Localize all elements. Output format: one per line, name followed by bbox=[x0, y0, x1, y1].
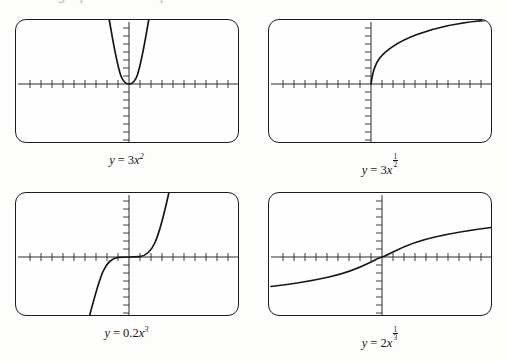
exponent-denominator: 2 bbox=[393, 161, 399, 168]
figure-grid: y=3x2 bbox=[0, 9, 507, 362]
caption-coefficient: 0.2 bbox=[123, 326, 139, 340]
graph-panel-square-root bbox=[268, 19, 492, 143]
figure-quadratic: y=3x2 bbox=[0, 9, 253, 182]
caption-base: x bbox=[387, 336, 393, 350]
exponent-denominator: 3 bbox=[393, 334, 399, 341]
caption-exponent: 3 bbox=[144, 324, 148, 334]
plot-quadratic bbox=[16, 20, 239, 143]
figure-square-root: y=3x12 bbox=[253, 9, 507, 182]
caption-lhs: y bbox=[362, 336, 368, 350]
clipped-header-label: Plot the graphs and compare bbox=[4, 0, 189, 4]
caption-exponent: 2 bbox=[140, 151, 144, 161]
caption-lhs: y bbox=[104, 326, 110, 340]
caption-cube-root: y=2x13 bbox=[362, 327, 398, 349]
caption-equals: = bbox=[113, 326, 120, 340]
caption-exponent-fraction: 12 bbox=[393, 153, 399, 169]
clipped-header-text: Plot the graphs and compare bbox=[0, 0, 507, 9]
caption-equals: = bbox=[370, 336, 377, 350]
figure-cube-root: y=2x13 bbox=[253, 182, 507, 362]
caption-lhs: y bbox=[109, 153, 115, 167]
caption-square-root: y=3x12 bbox=[362, 154, 398, 176]
graph-panel-cube-root bbox=[268, 192, 492, 316]
caption-equals: = bbox=[370, 163, 377, 177]
caption-quadratic: y=3x2 bbox=[109, 154, 144, 167]
plot-square-root bbox=[269, 20, 492, 143]
curve-square-root bbox=[371, 20, 491, 84]
axes-square-root bbox=[271, 22, 491, 142]
figure-cubic: y=0.2x3 bbox=[0, 182, 253, 362]
caption-cubic: y=0.2x3 bbox=[104, 327, 148, 340]
caption-lhs: y bbox=[362, 163, 368, 177]
graph-panel-quadratic bbox=[15, 19, 239, 143]
graph-panel-cubic bbox=[15, 192, 239, 316]
plot-cubic bbox=[16, 193, 239, 316]
caption-equals: = bbox=[118, 153, 125, 167]
caption-exponent-fraction: 13 bbox=[393, 326, 399, 342]
caption-base: x bbox=[387, 163, 393, 177]
plot-cube-root bbox=[269, 193, 492, 316]
